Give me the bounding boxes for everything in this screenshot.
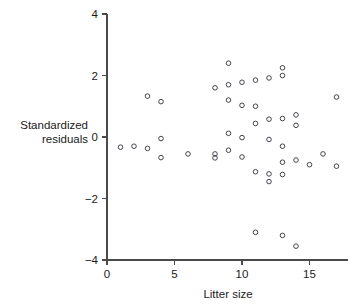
data-point <box>280 172 285 177</box>
y-tick-label: −4 <box>85 254 99 266</box>
data-point <box>226 98 231 103</box>
data-point <box>159 155 164 160</box>
data-point <box>240 80 245 85</box>
data-point <box>267 76 272 81</box>
x-tick-label: 0 <box>104 268 110 280</box>
data-point <box>253 104 258 109</box>
data-point <box>226 61 231 66</box>
x-tick-label: 15 <box>303 268 316 280</box>
data-point <box>280 160 285 165</box>
y-axis-ticks: −4−2024 <box>85 8 107 266</box>
data-point <box>294 158 299 163</box>
data-point <box>253 230 258 235</box>
data-point <box>132 144 137 149</box>
data-points-group <box>118 61 339 249</box>
y-tick-label: −2 <box>85 193 98 205</box>
data-point <box>186 152 191 157</box>
data-point <box>294 244 299 249</box>
data-point <box>280 144 285 149</box>
data-point <box>294 113 299 118</box>
data-point <box>213 86 218 91</box>
data-point <box>267 179 272 184</box>
data-point <box>226 82 231 87</box>
data-point <box>267 117 272 122</box>
data-point <box>159 99 164 104</box>
axes-group <box>107 14 348 260</box>
data-point <box>280 66 285 71</box>
data-point <box>145 146 150 151</box>
y-tick-label: 0 <box>92 131 98 143</box>
y-tick-label: 4 <box>92 8 99 20</box>
y-tick-label: 2 <box>92 70 98 82</box>
data-point <box>307 162 312 167</box>
data-point <box>240 135 245 140</box>
x-axis-ticks: 051015 <box>104 260 316 280</box>
data-point <box>226 148 231 153</box>
data-point <box>253 121 258 126</box>
data-point <box>280 116 285 121</box>
data-point <box>145 94 150 99</box>
data-point <box>321 152 326 157</box>
data-point <box>240 155 245 160</box>
data-point <box>280 233 285 238</box>
x-axis-title: Litter size <box>203 288 252 300</box>
data-point <box>226 131 231 136</box>
data-point <box>253 78 258 83</box>
data-point <box>159 136 164 141</box>
data-point <box>240 103 245 108</box>
data-point <box>118 145 123 150</box>
data-point <box>267 137 272 142</box>
data-point <box>267 172 272 177</box>
data-point <box>280 73 285 78</box>
data-point <box>334 164 339 169</box>
data-point <box>334 95 339 100</box>
x-tick-label: 5 <box>171 268 177 280</box>
plot-canvas: −4−2024 051015 Litter size <box>0 0 356 305</box>
data-point <box>294 123 299 128</box>
scatter-plot-figure: Standardized residuals −4−2024 051015 Li… <box>0 0 356 305</box>
x-tick-label: 10 <box>236 268 249 280</box>
data-point <box>253 169 258 174</box>
